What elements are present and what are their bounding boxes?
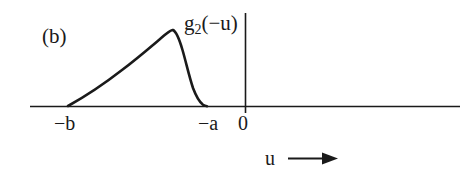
panel-label: (b): [42, 26, 67, 47]
x-tick-label-minus-a: −a: [198, 113, 218, 133]
curve-label-g2-minus-u: g2(−u): [184, 13, 238, 34]
curve-g2-minus-u: [68, 30, 207, 106]
x-tick-label-minus-b: −b: [54, 113, 75, 133]
curve-label-argument: (−u): [202, 11, 238, 35]
x-axis-direction-arrow: [288, 153, 338, 165]
x-axis-label: u: [265, 148, 275, 168]
figure-panel-b: (b) g2(−u) −b −a 0 u: [0, 0, 475, 180]
curve-label-base: g: [184, 11, 195, 35]
curve-label-subscript: 2: [195, 22, 202, 37]
x-tick-label-zero: 0: [238, 113, 248, 133]
